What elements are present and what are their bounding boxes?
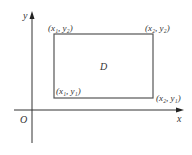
x-axis-label: x <box>177 114 181 124</box>
y-axis-arrow-icon <box>30 11 35 19</box>
corner-label-top-right: (x₂, y₂) <box>145 24 170 33</box>
y-axis-label: y <box>23 11 27 21</box>
x-axis-arrow-icon <box>176 108 184 113</box>
corner-label-bottom-right: (x₂, y₁) <box>156 94 181 103</box>
region-label: D <box>100 62 107 72</box>
corner-label-top-left: (x₁, y₂) <box>48 24 73 33</box>
corner-label-bottom-left: (x₁, y₁) <box>56 87 81 96</box>
origin-label: O <box>20 115 27 125</box>
